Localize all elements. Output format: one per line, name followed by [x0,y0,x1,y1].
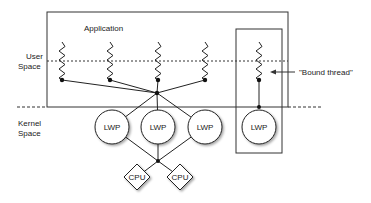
thread-2-anchor [108,78,112,82]
kernel-space-label-line1: Kernel [18,119,41,128]
threading-diagram: Application User Space Kernel Space "Bou… [0,0,371,203]
bound-thread-label: "Bound thread" [299,68,353,77]
bound-thread-arrowhead [270,70,276,75]
user-space-label-line2: Space [18,62,41,71]
edge-t4-mux [157,80,205,93]
lwp-label: LWP [104,123,121,132]
cpu-label: CPU [129,173,146,182]
thread-3-anchor [156,78,160,82]
thread-5-anchor [257,78,261,82]
edge-t2-mux [110,80,157,93]
thread-4-anchor [203,78,207,82]
kernel-space-label-line2: Space [18,129,41,138]
thread-mux-junction [155,91,159,95]
user-space-label-line1: User [26,52,43,61]
lwp-node-4: LWP [242,110,276,144]
lwp-node-2: LWP [141,110,175,144]
lwp-label: LWP [150,123,167,132]
cpu-node-1: CPU [124,164,150,190]
bound-lwp-junction [257,105,261,109]
cpu-label: CPU [172,173,189,182]
cpu-mux-junction [156,159,160,163]
lwp-node-3: LWP [188,110,222,144]
lwp-node-1: LWP [95,110,129,144]
cpu-node-2: CPU [167,164,193,190]
lwp-label: LWP [197,123,214,132]
lwp-label: LWP [251,123,268,132]
application-label: Application [84,24,123,33]
thread-1-anchor [60,78,64,82]
